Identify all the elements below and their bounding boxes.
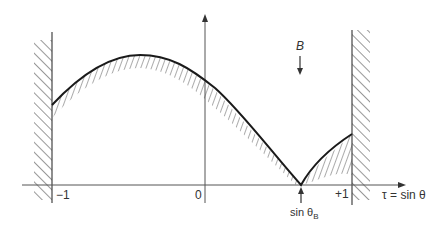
- x-axis-label: τ = sin θ: [382, 188, 426, 202]
- y-axis: [202, 14, 208, 203]
- tick-zero: 0: [195, 188, 202, 202]
- field-arrow-b: [297, 56, 303, 75]
- bragg-label-sub: B: [313, 212, 318, 221]
- bragg-marker-arrow: [298, 187, 304, 203]
- bragg-label-main: sin θ: [290, 206, 313, 218]
- curve-hatch: [52, 55, 352, 185]
- diagram-canvas: B −1 0 +1 τ = sin θ sin θB: [0, 0, 442, 230]
- bragg-label: sin θB: [290, 206, 319, 221]
- left-wall: [34, 32, 52, 203]
- right-wall: [352, 30, 370, 205]
- tick-plus-one: +1: [335, 187, 349, 201]
- field-label-b: B: [296, 39, 304, 53]
- tick-minus-one: −1: [56, 188, 70, 202]
